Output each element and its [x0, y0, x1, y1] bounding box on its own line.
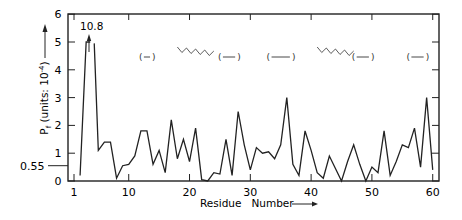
right-axis-ticks: [432, 14, 439, 181]
data-series-line-segment: [80, 42, 90, 175]
y-tick-label: 2: [55, 119, 62, 132]
offscale-arrow: [87, 34, 91, 52]
y-axis-label: Pf (units: 10-4): [38, 61, 53, 134]
y-axis-arrow: [43, 24, 48, 58]
x-tick-label: 40: [304, 186, 318, 199]
secondary-structure-symbols: ()()()()(): [139, 47, 429, 62]
svg-text:(: (: [406, 52, 410, 62]
svg-text:(: (: [352, 52, 356, 62]
y-tick-label: 5: [55, 36, 62, 49]
y-tick-label: 6: [55, 8, 62, 21]
svg-text:(: (: [139, 52, 143, 62]
svg-text:): ): [237, 52, 241, 62]
data-series-line: [94, 43, 432, 181]
x-axis-label: Residue Number: [200, 197, 294, 209]
svg-text:Pf (units: 10-4): Pf (units: 10-4): [38, 61, 53, 134]
x-tick-label: 50: [365, 186, 379, 199]
y-tick-label: 3: [55, 92, 62, 105]
y-tick-label: 4: [55, 64, 62, 77]
x-tick-label: 1: [71, 186, 78, 199]
y-tick-label: 1: [55, 147, 62, 160]
svg-text:): ): [426, 52, 430, 62]
svg-text:(: (: [218, 52, 222, 62]
svg-text:): ): [292, 52, 296, 62]
offscale-peak-label: 10.8: [80, 20, 103, 32]
y-axis: 0123456: [55, 8, 76, 188]
x-axis-arrow: [292, 202, 318, 207]
svg-text:): ): [152, 52, 156, 62]
x-tick-label: 60: [426, 186, 440, 199]
y-tick-label: 0: [55, 175, 62, 188]
svg-text:): ): [371, 52, 375, 62]
x-axis: 1102030405060: [71, 14, 440, 199]
reference-label: 0.55: [20, 160, 45, 173]
chart: 0123456 1102030405060 0.55 Pf (units: 10…: [0, 0, 462, 220]
svg-text:(: (: [267, 52, 271, 62]
x-tick-label: 10: [122, 186, 136, 199]
x-tick-label: 20: [183, 186, 197, 199]
